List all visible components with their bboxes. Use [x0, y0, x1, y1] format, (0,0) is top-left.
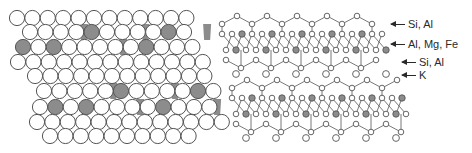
oxygen-atom	[223, 47, 229, 53]
oxygen-sphere	[176, 24, 191, 39]
oxygen-atom	[383, 111, 389, 117]
tetrahedral-atom	[379, 85, 385, 91]
oxygen-sphere	[57, 54, 72, 69]
oxygen-atom	[243, 47, 249, 53]
tetrahedral-atom	[339, 21, 345, 27]
oxygen-sphere	[71, 10, 86, 25]
octahedral-cation	[353, 47, 359, 53]
oxygen-sphere	[91, 114, 106, 129]
tetrahedral-atom	[233, 121, 239, 127]
octahedral-cation	[263, 47, 269, 53]
cation-sphere	[113, 83, 128, 98]
tetrahedral-atom	[308, 129, 314, 135]
potassium-atom	[303, 135, 310, 142]
oxygen-atom	[379, 31, 385, 37]
oxygen-sphere	[32, 99, 47, 114]
oxygen-sphere	[41, 54, 56, 69]
oxygen-sphere	[134, 54, 149, 69]
oxygen-sphere	[72, 54, 87, 69]
oxygen-atom	[343, 47, 349, 53]
oxygen-sphere	[104, 128, 119, 143]
oxygen-sphere	[185, 39, 200, 54]
oxygen-sphere	[199, 114, 214, 129]
oxygen-atom	[333, 47, 339, 53]
oxygen-sphere	[181, 128, 196, 143]
oxygen-sphere	[163, 10, 178, 25]
oxygen-atom	[353, 111, 359, 117]
oxygen-sphere	[43, 68, 58, 83]
octahedral-cation	[323, 47, 329, 53]
mica-structure-figure: Si, Al Al, Mg, Fe Si, Al K	[0, 0, 472, 153]
oxygen-sphere	[56, 10, 71, 25]
oxygen-sphere	[92, 39, 107, 54]
oxygen-sphere	[98, 83, 113, 98]
octahedral-cation	[369, 95, 375, 101]
oxygen-sphere	[36, 83, 51, 98]
oxygen-sphere	[42, 128, 57, 143]
tetrahedral-atom	[358, 65, 364, 71]
tetrahedral-atom	[298, 65, 304, 71]
bonds	[222, 16, 386, 68]
oxygen-atom	[239, 95, 245, 101]
tetrahedral-atom	[279, 21, 285, 27]
oxygen-sphere	[169, 39, 184, 54]
oxygen-sphere	[74, 68, 89, 83]
oxygen-sphere	[67, 83, 82, 98]
oxygen-sphere	[115, 24, 130, 39]
oxygen-atom	[299, 95, 305, 101]
ball-and-stick-diagram	[219, 13, 409, 141]
label-text: Si, Al	[419, 56, 444, 68]
tetrahedral-atom	[289, 85, 295, 91]
oxygen-sphere	[87, 54, 102, 69]
oxygen-atom	[293, 111, 299, 117]
oxygen-sphere	[58, 128, 73, 143]
oxygen-sphere	[195, 54, 210, 69]
cation-sphere	[139, 39, 154, 54]
label-k: K	[402, 69, 426, 81]
tetrahedral-atom	[328, 65, 334, 71]
oxygen-atom	[349, 31, 355, 37]
label-text: Si, Al	[408, 18, 433, 30]
oxygen-sphere	[135, 128, 150, 143]
oxygen-sphere	[77, 39, 92, 54]
octahedral-cation	[273, 111, 279, 117]
octahedral-cation	[393, 111, 399, 117]
octahedral-cation	[243, 111, 249, 117]
oxygen-atom	[313, 47, 319, 53]
oxygen-sphere	[22, 24, 37, 39]
sphere-packing-diagram	[9, 10, 229, 143]
octahedral-cation	[333, 111, 339, 117]
oxygen-sphere	[26, 54, 41, 69]
oxygen-sphere	[125, 99, 140, 114]
oxygen-atom	[259, 31, 265, 37]
tetrahedral-atom	[259, 85, 265, 91]
octahedral-cation	[339, 95, 345, 101]
oxygen-sphere	[119, 128, 134, 143]
cation-sphere	[15, 39, 30, 54]
oxygen-atom	[233, 111, 239, 117]
oxygen-atom	[349, 95, 355, 101]
oxygen-atom	[303, 47, 309, 53]
oxygen-atom	[263, 111, 269, 117]
tetrahedral-atom	[323, 121, 329, 127]
oxygen-sphere	[137, 114, 152, 129]
oxygen-atom	[289, 31, 295, 37]
oxygen-sphere	[31, 39, 46, 54]
tetrahedral-atom	[313, 57, 319, 63]
tetrahedral-atom	[234, 13, 240, 19]
oxygen-sphere	[140, 99, 155, 114]
oxygen-sphere	[175, 83, 190, 98]
cation-sphere	[79, 99, 94, 114]
oxygen-atom	[323, 111, 329, 117]
octahedral-cation	[383, 47, 389, 53]
octahedral-cation	[279, 95, 285, 101]
tetrahedral-atom	[249, 21, 255, 27]
tetrahedral-atom	[238, 65, 244, 71]
label-al-mg-fe: Al, Mg, Fe	[391, 38, 458, 50]
oxygen-sphere	[181, 68, 196, 83]
oxygen-atom	[339, 31, 345, 37]
oxygen-sphere	[10, 54, 25, 69]
tetrahedral-atom	[324, 13, 330, 19]
oxygen-atom	[343, 111, 349, 117]
oxygen-sphere	[148, 10, 163, 25]
